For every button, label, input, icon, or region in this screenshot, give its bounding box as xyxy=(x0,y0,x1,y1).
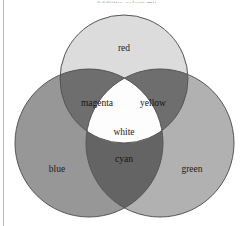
label-green: green xyxy=(181,164,202,174)
label-yellow: yellow xyxy=(140,98,166,108)
label-white: white xyxy=(113,127,134,137)
label-magenta: magenta xyxy=(81,98,114,108)
label-blue: blue xyxy=(49,164,65,174)
label-cyan: cyan xyxy=(115,154,133,164)
figure-canvas: Additive colour mixing xyxy=(0,0,249,226)
label-red: red xyxy=(118,43,130,53)
venn-diagram: red blue green magenta yellow cyan white xyxy=(0,0,249,226)
